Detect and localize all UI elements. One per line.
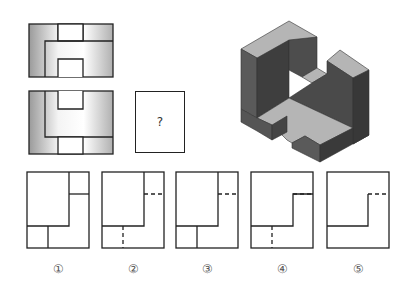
isometric-solid — [241, 21, 369, 162]
unknown-side-view: ? — [135, 91, 185, 153]
front-view — [29, 91, 113, 154]
option-5-label[interactable]: ⑤ — [327, 262, 389, 276]
option-4[interactable] — [251, 172, 313, 248]
question-mark: ? — [157, 115, 163, 129]
option-3[interactable] — [176, 172, 238, 248]
option-2[interactable] — [102, 172, 164, 248]
option-2-label[interactable]: ② — [102, 262, 164, 276]
diagram-canvas — [0, 0, 413, 295]
option-1-label[interactable]: ① — [27, 262, 89, 276]
option-5[interactable] — [327, 172, 389, 248]
option-4-label[interactable]: ④ — [251, 262, 313, 276]
top-view — [29, 24, 113, 77]
option-3-label[interactable]: ③ — [176, 262, 238, 276]
option-1[interactable] — [27, 172, 89, 248]
